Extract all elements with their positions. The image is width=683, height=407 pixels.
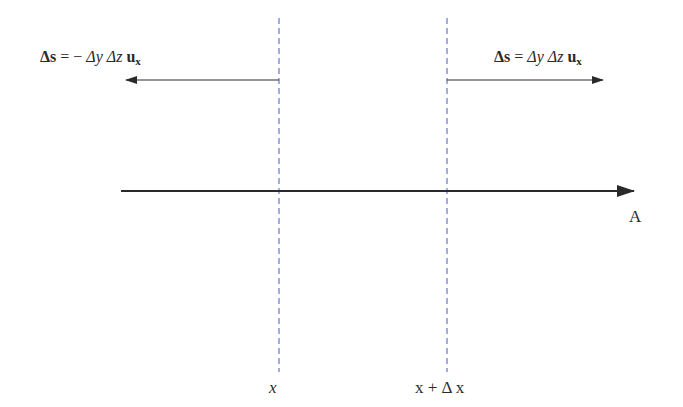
field-label: A <box>629 207 641 227</box>
left-term1: Δy <box>86 48 103 65</box>
left-equals: = <box>60 48 69 65</box>
left-term2: Δz <box>107 48 123 65</box>
flux-diagram: Δs = − Δy Δz ux Δs = Δy Δz ux A x x + Δ … <box>0 0 683 407</box>
left-sign: − <box>73 48 82 65</box>
right-lhs: Δs <box>494 48 510 65</box>
right-term1: Δy <box>527 48 544 65</box>
right-term2: Δz <box>548 48 564 65</box>
right-normal-equation: Δs = Δy Δz ux <box>494 48 582 66</box>
right-position-label: x + Δ x <box>415 378 464 398</box>
left-position-label: x <box>269 378 277 398</box>
right-unit: u <box>567 48 576 65</box>
left-lhs: Δs <box>40 48 56 65</box>
left-normal-equation: Δs = − Δy Δz ux <box>40 48 141 66</box>
right-unit-sub: x <box>576 55 582 67</box>
left-unit-sub: x <box>135 55 141 67</box>
right-equals: = <box>514 48 523 65</box>
